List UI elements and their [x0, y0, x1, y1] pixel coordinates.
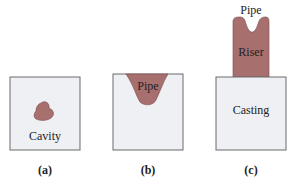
- pipe-label-c: Pipe: [240, 3, 261, 17]
- caption-c: (c): [244, 163, 257, 177]
- casting-defects-diagram: Cavity (a) Pipe (b) Pipe Riser Casting (…: [0, 0, 300, 184]
- caption-b: (b): [141, 163, 156, 177]
- riser-label: Riser: [238, 45, 263, 59]
- cavity-label: Cavity: [29, 129, 61, 143]
- casting-label: Casting: [233, 103, 270, 117]
- panel-c: Pipe Riser Casting (c): [216, 3, 286, 177]
- pipe-label-b: Pipe: [137, 79, 158, 93]
- caption-a: (a): [38, 163, 52, 177]
- panel-a: Cavity (a): [10, 77, 80, 177]
- panel-b: Pipe (b): [113, 74, 183, 177]
